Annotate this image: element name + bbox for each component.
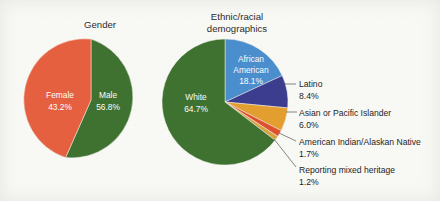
ethnic-reporting-mixed-heritage-label: Reporting mixed heritage: [299, 165, 395, 175]
ethnic-american-indian-alaskan-native-label: American Indian/Alaskan Native: [299, 137, 421, 147]
ethnic-african-american-label-line1: African: [238, 54, 264, 64]
ethnic-african-american-percent: 18.1%: [239, 76, 263, 86]
leader-line-reporting-mixed-heritage: [274, 139, 296, 167]
ethnic-chart-title-line2: demographics: [207, 23, 267, 34]
ethnic-african-american-label-line2: American: [233, 65, 269, 75]
ethnic-white-label: White: [185, 92, 207, 102]
figure-container: Gender Male 56.8% Female 43.2% Ethnic/ra…: [0, 0, 440, 201]
gender-female-percent: 43.2%: [48, 102, 72, 112]
ethnic-latino-percent: 8.4%: [299, 91, 319, 101]
chart-ethnic-racial: Ethnic/racial demographics White 64.7% A…: [162, 11, 421, 187]
ethnic-white-percent: 64.7%: [184, 104, 208, 114]
gender-male-label: Male: [99, 90, 117, 100]
ethnic-latino-label: Latino: [299, 79, 323, 89]
ethnic-chart-title-line1: Ethnic/racial: [211, 11, 263, 22]
chart-gender: Gender Male 56.8% Female 43.2%: [24, 19, 133, 158]
leader-line-american-indian-alaskan-native: [279, 133, 296, 141]
gender-male-percent: 56.8%: [96, 102, 120, 112]
ethnic-asian-pacific-islander-label: Asian or Pacific Islander: [299, 108, 391, 118]
ethnic-asian-pacific-islander-percent: 6.0%: [299, 120, 319, 130]
gender-chart-title: Gender: [84, 19, 117, 30]
gender-female-label: Female: [46, 90, 74, 100]
ethnic-american-indian-alaskan-native-percent: 1.7%: [299, 149, 319, 159]
ethnic-reporting-mixed-heritage-percent: 1.2%: [299, 177, 319, 187]
pie-charts-canvas: Gender Male 56.8% Female 43.2% Ethnic/ra…: [0, 0, 440, 201]
